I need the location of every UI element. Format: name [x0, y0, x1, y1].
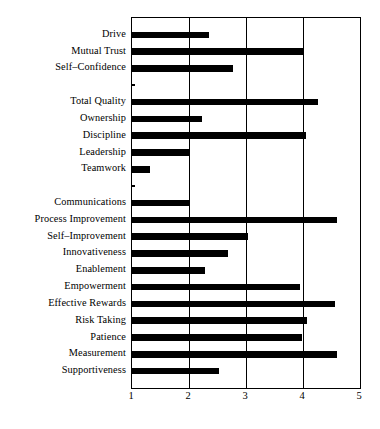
bar [132, 166, 150, 173]
y-axis-label: Measurement [0, 347, 126, 358]
y-axis-label: Risk Taking [0, 314, 126, 325]
bar [132, 267, 205, 274]
y-axis-label: Total Quality [0, 95, 126, 106]
y-axis-label: Mutual Trust [0, 45, 126, 56]
gridline-x-2 [189, 18, 190, 388]
y-axis-label: Process Improvement [0, 213, 126, 224]
bar [132, 185, 135, 187]
x-axis-tick-label: 5 [356, 390, 361, 402]
y-axis-label: Effective Rewards [0, 297, 126, 308]
y-axis-label: Drive [0, 28, 126, 39]
y-axis-category-labels: DriveMutual TrustSelf–ConfidenceTotal Qu… [0, 17, 126, 387]
y-axis-label: Communications [0, 196, 126, 207]
x-axis-tick-label: 1 [128, 390, 133, 402]
gridline-x-4 [303, 18, 304, 388]
bar [132, 84, 135, 86]
bar [132, 368, 219, 375]
y-axis-label: Self–Confidence [0, 61, 126, 72]
bar [132, 149, 189, 156]
plot-area [131, 17, 361, 389]
bar [132, 233, 248, 240]
bar [132, 334, 302, 341]
y-axis-label: Supportiveness [0, 364, 126, 375]
gridline-x-3 [246, 18, 247, 388]
bar [132, 99, 318, 106]
bar [132, 301, 335, 308]
bar [132, 250, 228, 257]
x-axis-tick-label: 4 [299, 390, 304, 402]
x-axis-tick-label: 3 [242, 390, 247, 402]
bar [132, 200, 189, 207]
y-axis-label: Innovativeness [0, 246, 126, 257]
x-axis-tick-label: 2 [185, 390, 190, 402]
horizontal-bar-chart: DriveMutual TrustSelf–ConfidenceTotal Qu… [0, 0, 380, 429]
bar [132, 32, 209, 39]
bar [132, 351, 337, 358]
x-axis-tick-labels: 12345 [131, 390, 360, 410]
bar [132, 317, 307, 324]
bar [132, 217, 337, 224]
bar [132, 48, 303, 55]
y-axis-label: Teamwork [0, 162, 126, 173]
y-axis-label: Leadership [0, 146, 126, 157]
bar [132, 284, 300, 291]
y-axis-label: Patience [0, 331, 126, 342]
y-axis-label: Self–Improvement [0, 230, 126, 241]
y-axis-label: Discipline [0, 129, 126, 140]
y-axis-label: Ownership [0, 112, 126, 123]
y-axis-label: Enablement [0, 263, 126, 274]
y-axis-label: Empowerment [0, 280, 126, 291]
bar [132, 132, 306, 139]
bar [132, 65, 233, 72]
bar [132, 116, 202, 123]
